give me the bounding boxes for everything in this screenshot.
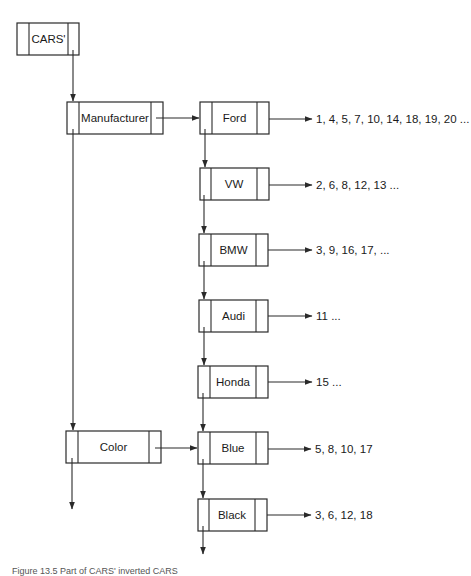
attribute-node-manufacturer: Manufacturer — [67, 102, 163, 134]
value-node-bmw: BMW — [199, 234, 268, 266]
audi-record-list: 11 ... — [316, 310, 341, 322]
root-label: CARS' — [31, 33, 65, 45]
value-node-blue: Blue — [198, 432, 268, 464]
attribute-label-manufacturer: Manufacturer — [81, 112, 149, 124]
value-label-honda: Honda — [216, 376, 250, 388]
value-label-blue: Blue — [221, 442, 244, 454]
bmw-record-list: 3, 9, 16, 17, ... — [316, 244, 390, 256]
ford-record-list: 1, 4, 5, 7, 10, 14, 18, 19, 20 ... — [316, 113, 469, 125]
attribute-node-color: Color — [66, 431, 161, 463]
value-node-honda: Honda — [198, 366, 268, 398]
blue-record-list: 5, 8, 10, 17 — [315, 443, 373, 455]
honda-record-list: 15 ... — [316, 376, 342, 388]
vw-record-list: 2, 6, 8, 12, 13 ... — [316, 179, 399, 191]
value-label-bmw: BMW — [219, 244, 247, 256]
value-label-black: Black — [218, 509, 246, 521]
black-record-list: 3, 6, 12, 18 — [315, 509, 373, 521]
value-label-vw: VW — [225, 178, 244, 190]
value-node-black: Black — [198, 499, 267, 531]
value-node-audi: Audi — [199, 300, 268, 332]
figure-caption: Figure 13.5 Part of CARS' inverted CARS — [12, 566, 178, 576]
root-node-cars: CARS' — [17, 23, 79, 55]
value-node-vw: VW — [200, 168, 269, 200]
value-node-ford: Ford — [200, 102, 269, 134]
value-label-ford: Ford — [223, 112, 247, 124]
value-label-audi: Audi — [222, 310, 245, 322]
attribute-label-color: Color — [100, 441, 128, 453]
